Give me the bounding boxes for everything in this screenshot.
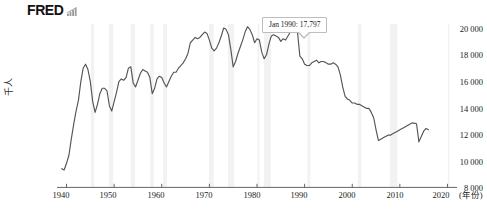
recession-bands [91,24,450,187]
recession-band [257,24,259,187]
fred-wordmark: FRED [27,3,64,17]
fred-logo: FRED [27,3,79,17]
data-point-tooltip: Jan 1990: 17,797 [262,17,327,33]
recession-band [448,24,449,187]
x-tick-label: 1980 [244,191,261,200]
line-chart-canvas [57,24,457,188]
recession-band [209,24,214,187]
recession-band [390,24,398,187]
recession-band [163,24,167,187]
x-axis-label: (年份) [459,191,483,200]
x-tick-label: 1990 [291,191,308,200]
fred-chart-screenshot: FRED 千人 20 000 18 000 16 000 14 000 12 0… [0,0,487,217]
y-axis-label: 千人 [2,78,15,96]
x-tick-label: 2020 [433,191,450,200]
x-tick-label: 2010 [387,191,404,200]
x-tick-label: 2000 [339,191,356,200]
recession-band [307,24,310,187]
x-tick-label: 1940 [53,191,70,200]
recession-band [150,24,153,187]
x-tick-label: 1970 [196,191,213,200]
ascending-bars-icon [67,7,79,16]
plot-area [57,24,457,188]
x-tick-label: 1960 [148,191,165,200]
manufacturing-employment-line [62,27,429,170]
tooltip-pointer [299,32,309,37]
x-tick-label: 1950 [100,191,117,200]
recession-band [131,24,135,187]
